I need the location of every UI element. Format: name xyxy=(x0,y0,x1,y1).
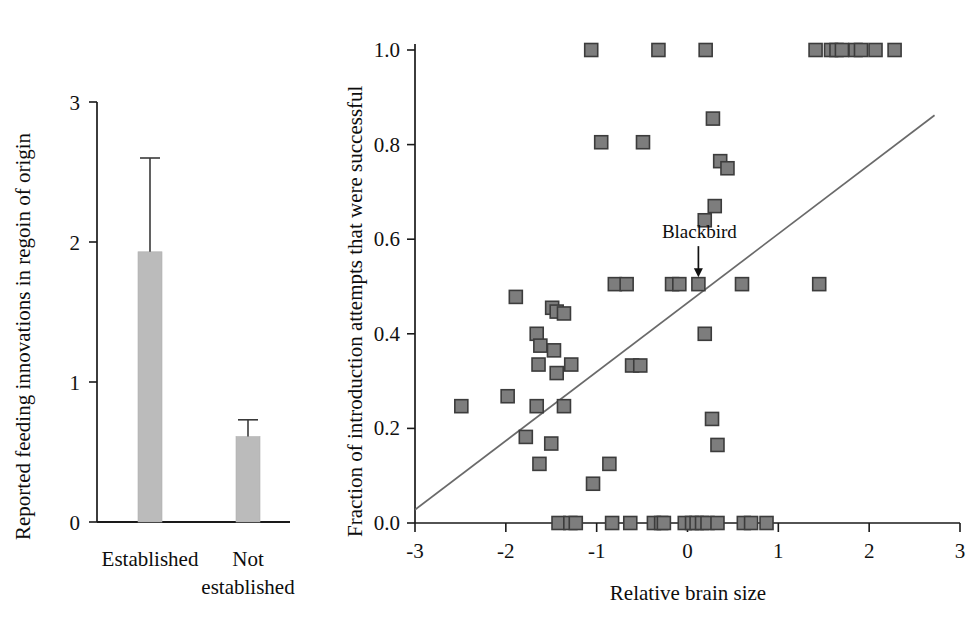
data-point xyxy=(706,112,719,125)
data-point xyxy=(699,44,712,57)
bar-y-ticklabel-3: 3 xyxy=(70,91,81,115)
data-point xyxy=(652,44,665,57)
data-point xyxy=(888,44,901,57)
data-point xyxy=(711,438,724,451)
scatter-x-ticklabel-6: 3 xyxy=(955,539,966,563)
data-point xyxy=(533,457,546,470)
data-point xyxy=(557,307,570,320)
bar-y-axis-title: Reported feeding innovations in regoin o… xyxy=(11,132,35,540)
bar-category-label-established: Established xyxy=(102,547,199,571)
data-point xyxy=(673,278,686,291)
bar-series xyxy=(138,158,260,522)
blackbird-annotation: Blackbird xyxy=(662,221,737,277)
bar-1 xyxy=(236,437,260,522)
blackbird-annotation-label: Blackbird xyxy=(662,221,737,242)
data-point xyxy=(603,457,616,470)
scatter-x-axis-title: Relative brain size xyxy=(610,581,766,605)
data-point xyxy=(547,344,560,357)
blackbird-arrow-head xyxy=(694,268,703,277)
data-point xyxy=(657,517,670,530)
data-point xyxy=(585,44,598,57)
data-point xyxy=(620,278,633,291)
scatter-y-ticklabel-0: 0.0 xyxy=(374,511,400,535)
data-point xyxy=(813,278,826,291)
data-point xyxy=(854,44,867,57)
scatter-x-ticklabel-0: -3 xyxy=(406,539,424,563)
scatter-y-ticklabel-2: 0.4 xyxy=(374,322,401,346)
data-point xyxy=(692,278,705,291)
trend-line xyxy=(415,115,935,509)
scatter-y-ticklabel-3: 0.6 xyxy=(374,227,400,251)
bar-chart-svg: Reported feeding innovations in regoin o… xyxy=(0,0,340,624)
scatter-chart-panel: Fraction of introduction attempts that w… xyxy=(340,0,973,624)
data-point xyxy=(587,477,600,490)
scatter-x-ticklabel-5: 2 xyxy=(864,539,875,563)
error-bar-0 xyxy=(140,158,160,252)
data-point xyxy=(698,327,711,340)
data-point xyxy=(869,44,882,57)
scatter-y-ticklabel-4: 0.8 xyxy=(374,133,400,157)
data-point xyxy=(519,430,532,443)
data-point xyxy=(624,517,637,530)
data-point xyxy=(532,358,545,371)
data-point xyxy=(534,339,547,352)
data-point xyxy=(501,390,514,403)
data-point xyxy=(565,358,578,371)
data-point xyxy=(721,162,734,175)
data-point xyxy=(835,44,848,57)
bar-y-ticklabel-1: 1 xyxy=(70,371,81,395)
scatter-y-axis-title: Fraction of introduction attempts that w… xyxy=(343,85,367,537)
data-point xyxy=(736,278,749,291)
scatter-y-ticks: 0.00.20.40.60.81.0 xyxy=(374,38,415,535)
error-bar-1 xyxy=(238,420,258,437)
scatter-points xyxy=(455,44,901,530)
data-point xyxy=(550,367,563,380)
data-point xyxy=(530,400,543,413)
bar-category-label-not: Not xyxy=(232,547,264,571)
data-point xyxy=(745,517,758,530)
scatter-x-ticklabel-2: -1 xyxy=(588,539,606,563)
scatter-x-ticklabel-4: 1 xyxy=(773,539,784,563)
scatter-y-ticklabel-5: 1.0 xyxy=(374,38,400,62)
data-point xyxy=(760,517,773,530)
data-point xyxy=(706,412,719,425)
data-point xyxy=(569,517,582,530)
bar-y-ticklabel-2: 2 xyxy=(70,231,81,255)
data-point xyxy=(606,517,619,530)
data-point xyxy=(509,290,522,303)
data-point xyxy=(595,136,608,149)
data-point xyxy=(809,44,822,57)
data-point xyxy=(708,200,721,213)
data-point xyxy=(545,437,558,450)
bar-y-ticklabel-0: 0 xyxy=(70,511,81,535)
bar-0 xyxy=(138,252,162,522)
data-point xyxy=(634,359,647,372)
scatter-chart-svg: Fraction of introduction attempts that w… xyxy=(340,0,973,624)
bar-chart-panel: Reported feeding innovations in regoin o… xyxy=(0,0,340,624)
data-point xyxy=(455,400,468,413)
data-point xyxy=(557,400,570,413)
scatter-x-ticklabel-1: -2 xyxy=(497,539,515,563)
data-point xyxy=(711,517,724,530)
bar-y-ticks xyxy=(89,102,97,522)
figure-root: Reported feeding innovations in regoin o… xyxy=(0,0,973,624)
bar-category-label-established2: established xyxy=(201,575,295,599)
data-point xyxy=(636,136,649,149)
scatter-y-ticklabel-1: 0.2 xyxy=(374,416,400,440)
scatter-x-ticklabel-3: 0 xyxy=(682,539,693,563)
